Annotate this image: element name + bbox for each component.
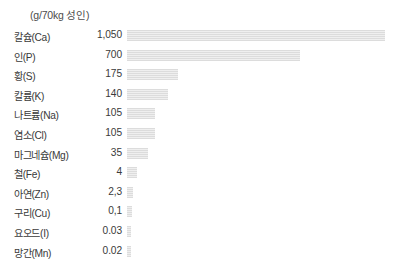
row-value: 4	[76, 166, 122, 177]
chart-title: (g/70kg 성인)	[30, 7, 89, 22]
chart-row: 요오드(I)0.03	[0, 223, 401, 243]
chart-row: 황(S)175	[0, 66, 401, 86]
bar-track	[127, 246, 393, 257]
bar-track	[127, 148, 393, 159]
bar-fill	[127, 108, 155, 119]
row-value: 35	[76, 147, 122, 158]
bar-track	[127, 187, 393, 198]
chart-row: 염소(Cl)105	[0, 125, 401, 145]
row-value: 0.03	[76, 225, 122, 236]
chart-row: 아연(Zn)2,3	[0, 184, 401, 204]
row-value: 1,050	[76, 29, 122, 40]
bar-fill	[127, 69, 178, 80]
bar-track	[127, 50, 393, 61]
mineral-content-chart: (g/70kg 성인) 칼슘(Ca)1,050인(P)700황(S)175칼륨(…	[0, 0, 401, 267]
bar-track	[127, 108, 393, 119]
row-value: 0,1	[76, 205, 122, 216]
row-value: 0.02	[76, 245, 122, 256]
bar-fill	[127, 226, 131, 237]
bar-fill	[127, 187, 133, 198]
row-value: 175	[76, 68, 122, 79]
bar-track	[127, 226, 393, 237]
bar-fill	[127, 148, 148, 159]
bar-track	[127, 30, 393, 41]
bar-track	[127, 89, 393, 100]
bar-fill	[127, 89, 168, 100]
chart-row: 구리(Cu)0,1	[0, 203, 401, 223]
row-value: 140	[76, 88, 122, 99]
bar-track	[127, 206, 393, 217]
bar-track	[127, 69, 393, 80]
chart-row: 나트륨(Na)105	[0, 105, 401, 125]
bar-track	[127, 167, 393, 178]
chart-row: 철(Fe)4	[0, 164, 401, 184]
chart-rows-container: 칼슘(Ca)1,050인(P)700황(S)175칼륨(K)140나트륨(Na)…	[0, 27, 401, 262]
bar-fill	[127, 246, 131, 257]
bar-fill	[127, 50, 300, 61]
bar-track	[127, 128, 393, 139]
bar-fill	[127, 128, 155, 139]
chart-row: 인(P)700	[0, 47, 401, 67]
chart-row: 마그네슘(Mg)35	[0, 145, 401, 165]
chart-row: 칼륨(K)140	[0, 86, 401, 106]
row-value: 2,3	[76, 186, 122, 197]
chart-row: 망간(Mn)0.02	[0, 243, 401, 263]
bar-fill	[127, 167, 137, 178]
row-value: 700	[76, 49, 122, 60]
row-value: 105	[76, 127, 122, 138]
chart-row: 칼슘(Ca)1,050	[0, 27, 401, 47]
bar-fill	[127, 30, 385, 41]
row-value: 105	[76, 107, 122, 118]
bar-fill	[127, 206, 132, 217]
